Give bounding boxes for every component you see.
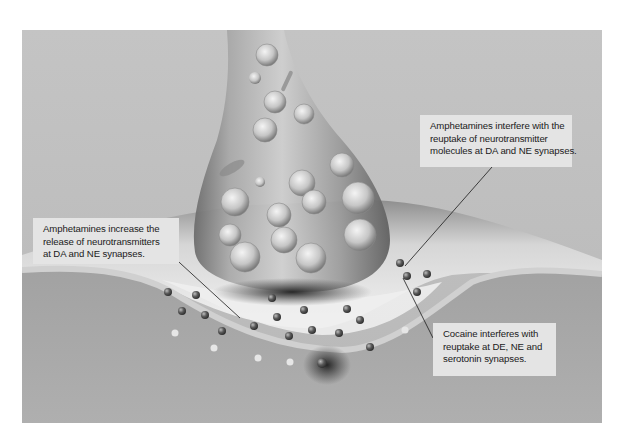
callout-text-line: reuptake of neurotransmitter [430,133,564,146]
cleft-shadow [303,345,351,385]
callout-text-line: Amphetamines interfere with the [430,120,564,133]
callout-text-line: release of neurotransmitters [43,236,171,249]
callout-amphetamines-reuptake: Amphetamines interfere with the reuptake… [420,115,572,167]
callout-text-line: Amphetamines increase the [43,223,171,236]
callout-amphetamines-release: Amphetamines increase the release of neu… [33,218,179,264]
callout-text-line: molecules at DA and NE synapses. [430,145,564,158]
callout-text-line: Cocaine interferes with [443,328,548,341]
callout-cocaine-reuptake: Cocaine interferes with reuptake at DE, … [433,323,556,376]
terminal-shadow [212,278,372,306]
synapse-illustration: Amphetamines interfere with the reuptake… [22,30,602,423]
callout-text-line: reuptake at DE, NE and [443,341,548,354]
callout-text-line: at DA and NE synapses. [43,248,171,261]
callout-text-line: serotonin synapses. [443,353,548,366]
